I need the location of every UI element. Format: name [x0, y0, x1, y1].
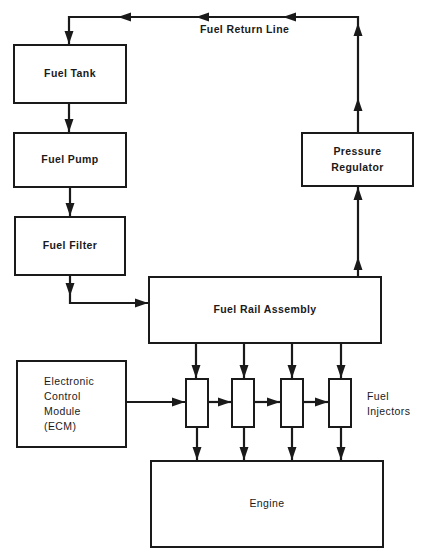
fuel-injector-2 — [231, 378, 255, 428]
fuel-rail-assembly-label: Fuel Rail Assembly — [213, 302, 316, 317]
fuel-injectors-label: Fuel Injectors — [367, 389, 410, 419]
pressure-regulator-box: Pressure Regulator — [301, 132, 414, 187]
fuel-tank-label: Fuel Tank — [44, 66, 96, 81]
fuel-injector-3 — [280, 378, 304, 428]
fuel-return-line-label: Fuel Return Line — [200, 22, 289, 37]
engine-box: Engine — [150, 460, 384, 548]
fuel-tank-box: Fuel Tank — [13, 44, 127, 104]
fuel-filter-box: Fuel Filter — [14, 216, 126, 276]
fuel-pump-label: Fuel Pump — [41, 152, 98, 167]
engine-label: Engine — [249, 496, 284, 511]
ecm-box: Electronic Control Module (ECM) — [16, 360, 127, 448]
ecm-label: Electronic Control Module (ECM) — [44, 374, 94, 435]
fuel-pump-box: Fuel Pump — [13, 132, 127, 188]
fuel-injector-4 — [328, 378, 352, 428]
fuel-injector-1 — [185, 378, 209, 428]
fuel-system-diagram: Fuel Return Line Fuel Tank Fuel Pump Fue… — [0, 0, 425, 551]
fuel-rail-assembly-box: Fuel Rail Assembly — [148, 276, 382, 344]
pressure-regulator-label: Pressure Regulator — [331, 144, 384, 174]
fuel-filter-label: Fuel Filter — [43, 238, 98, 253]
